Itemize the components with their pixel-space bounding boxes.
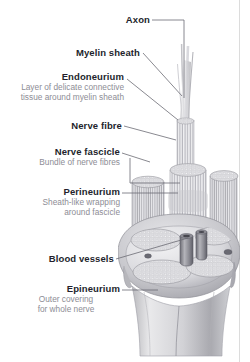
label-nerve-fascicle-title: Nerve fascicle bbox=[12, 146, 120, 157]
label-perineurium: Perineurium Sheath-like wrapping around … bbox=[10, 186, 120, 217]
label-endoneurium-sub-1: Layer of delicate connective bbox=[4, 82, 124, 92]
label-endoneurium-title: Endoneurium bbox=[4, 71, 124, 82]
label-epineurium-sub-1: Outer covering bbox=[12, 294, 120, 304]
label-epineurium-sub-2: for whole nerve bbox=[12, 304, 120, 314]
label-nerve-fibre: Nerve fibre bbox=[32, 120, 122, 131]
label-endoneurium-sub-2: tissue around myelin sheath bbox=[4, 92, 124, 102]
diagram-canvas: Axon Myelin sheath Endoneurium Layer of … bbox=[0, 0, 250, 362]
label-nerve-fibre-title: Nerve fibre bbox=[32, 120, 122, 131]
leader-fascicle bbox=[122, 153, 150, 162]
label-epineurium-title: Epineurium bbox=[12, 283, 120, 294]
leader-nerve-fibre bbox=[124, 126, 176, 140]
label-endoneurium: Endoneurium Layer of delicate connective… bbox=[4, 71, 124, 102]
leader-endoneurium bbox=[127, 79, 178, 120]
leader-axon bbox=[152, 20, 184, 98]
label-myelin-sheath: Myelin sheath bbox=[22, 47, 140, 58]
leader-blood-vessels bbox=[116, 238, 188, 259]
label-nerve-fascicle: Nerve fascicle Bundle of nerve fibres bbox=[12, 146, 120, 167]
label-axon-title: Axon bbox=[62, 14, 150, 25]
label-nerve-fascicle-sub-1: Bundle of nerve fibres bbox=[12, 157, 120, 167]
label-perineurium-sub-2: around fascicle bbox=[10, 207, 120, 217]
leader-myelin bbox=[143, 53, 182, 96]
label-blood-vessels-title: Blood vessels bbox=[14, 253, 114, 264]
figure-footer-caption bbox=[7, 353, 127, 361]
bracket-fascicle bbox=[130, 158, 180, 183]
label-blood-vessels: Blood vessels bbox=[14, 253, 114, 264]
label-perineurium-title: Perineurium bbox=[10, 186, 120, 197]
label-epineurium: Epineurium Outer covering for whole nerv… bbox=[12, 283, 120, 314]
label-perineurium-sub-1: Sheath-like wrapping bbox=[10, 197, 120, 207]
label-axon: Axon bbox=[62, 14, 150, 25]
label-myelin-sheath-title: Myelin sheath bbox=[22, 47, 140, 58]
